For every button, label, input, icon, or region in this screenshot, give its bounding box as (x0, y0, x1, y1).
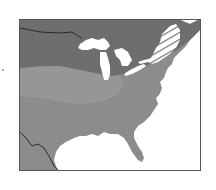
map-figure (0, 0, 216, 190)
map-frame (19, 19, 201, 171)
margin-dot (2, 69, 4, 71)
map-canvas (20, 20, 200, 170)
